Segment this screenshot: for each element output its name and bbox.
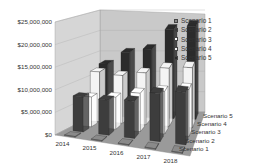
x-tick-label: 2016 bbox=[110, 149, 124, 156]
legend-item: Scenario 3 bbox=[174, 35, 212, 44]
legend-label: Scenario 5 bbox=[181, 53, 212, 62]
y-axis: $0$5,000,000$10,000,000$15,000,000$20,00… bbox=[18, 18, 53, 138]
legend-label: Scenario 2 bbox=[181, 25, 212, 34]
legend-swatch-icon bbox=[174, 56, 178, 60]
bar bbox=[99, 95, 114, 135]
depth-tick-label: Scenario 5 bbox=[203, 112, 233, 119]
depth-tick-label: Scenario 2 bbox=[185, 137, 215, 144]
legend-label: Scenario 1 bbox=[181, 16, 212, 25]
legend-item: Scenario 1 bbox=[174, 16, 212, 25]
y-tick-label: $15,000,000 bbox=[18, 63, 53, 70]
x-tick-label: 2015 bbox=[83, 144, 97, 151]
depth-tick-label: Scenario 1 bbox=[179, 145, 209, 152]
legend-swatch-icon bbox=[174, 28, 178, 32]
x-tick-label: 2014 bbox=[56, 140, 70, 147]
y-tick-label: $0 bbox=[45, 131, 52, 138]
y-tick-label: $5,000,000 bbox=[21, 108, 53, 115]
legend-label: Scenario 4 bbox=[181, 44, 212, 53]
legend-item: Scenario 4 bbox=[174, 44, 212, 53]
y-tick-label: $10,000,000 bbox=[18, 86, 53, 93]
depth-tick-label: Scenario 4 bbox=[197, 120, 227, 127]
legend-swatch-icon bbox=[174, 19, 178, 23]
legend-swatch-icon bbox=[174, 37, 178, 41]
legend-item: Scenario 2 bbox=[174, 25, 212, 34]
x-tick-label: 2018 bbox=[164, 157, 178, 164]
x-tick-label: 2017 bbox=[137, 153, 151, 160]
bar bbox=[124, 96, 138, 139]
bar bbox=[73, 92, 89, 132]
legend-item: Scenario 5 bbox=[174, 53, 212, 62]
3d-column-chart: $0$5,000,000$10,000,000$15,000,000$20,00… bbox=[0, 0, 253, 167]
legend-swatch-icon bbox=[174, 47, 178, 51]
legend: Scenario 1Scenario 2Scenario 3Scenario 4… bbox=[174, 16, 212, 62]
y-tick-label: $25,000,000 bbox=[18, 18, 53, 25]
bar bbox=[150, 87, 163, 141]
depth-tick-label: Scenario 3 bbox=[191, 128, 221, 135]
y-tick-label: $20,000,000 bbox=[18, 41, 53, 48]
legend-label: Scenario 3 bbox=[181, 35, 212, 44]
